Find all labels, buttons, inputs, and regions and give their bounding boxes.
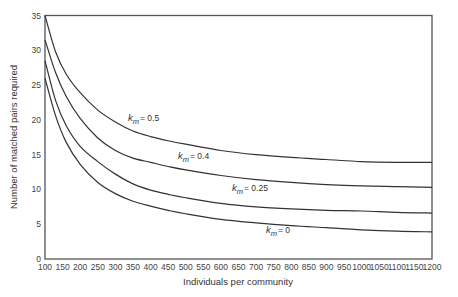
y-axis-title: Number of matched pairs required [8,65,19,209]
x-tick-label: 900 [319,262,333,272]
y-tick-label: 15 [32,150,42,160]
x-tick-label: 550 [196,262,210,272]
line-chart: 05101520253035 1001502002503003504004505… [0,0,458,297]
x-tick-label: 1000 [352,262,371,272]
curve-labels: km= 0.5km= 0.4km= 0.25km= 0 [128,112,290,238]
y-tick-label: 10 [32,184,42,194]
x-tick-label: 150 [55,262,69,272]
x-tick-label: 350 [126,262,140,272]
x-tick-label: 100 [38,262,52,272]
x-tick-label: 950 [337,262,351,272]
x-axis-ticks: 1001502002503003504004505005506006507007… [38,262,442,272]
x-tick-label: 500 [179,262,193,272]
curve-series-0 [45,16,432,163]
x-tick-label: 1200 [423,262,442,272]
x-tick-label: 650 [231,262,245,272]
curve-label-3: km= 0 [266,224,290,238]
curve-label-2: km= 0.25 [232,182,268,196]
x-axis-title: Individuals per community [183,276,293,287]
y-tick-label: 30 [32,45,42,55]
x-tick-label: 200 [73,262,87,272]
y-axis-ticks: 05101520253035 [32,11,42,265]
x-tick-label: 600 [214,262,228,272]
plot-frame [45,16,432,260]
x-tick-label: 450 [161,262,175,272]
x-tick-label: 750 [267,262,281,272]
y-tick-label: 5 [36,219,41,229]
x-tick-label: 1100 [388,262,407,272]
x-tick-label: 400 [143,262,157,272]
curves [45,16,432,232]
y-tick-label: 35 [32,11,42,21]
x-tick-label: 300 [108,262,122,272]
x-tick-label: 800 [284,262,298,272]
x-tick-label: 700 [249,262,263,272]
x-tick-label: 850 [302,262,316,272]
x-tick-label: 1150 [405,262,424,272]
x-tick-label: 250 [91,262,105,272]
y-tick-label: 25 [32,80,42,90]
y-tick-label: 20 [32,115,42,125]
x-tick-label: 1050 [370,262,389,272]
curve-label-0: km= 0.5 [128,112,159,126]
curve-label-1: km= 0.4 [178,150,209,164]
curve-series-3 [45,78,432,232]
